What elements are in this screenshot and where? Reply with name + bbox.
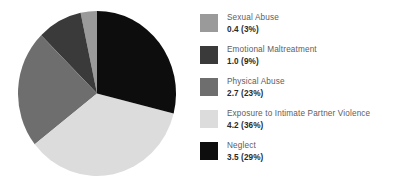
legend-color-swatch	[200, 110, 218, 128]
legend-text-group: Sexual Abuse0.4 (3%)	[227, 13, 279, 35]
legend-item-value: 0.4 (3%)	[227, 24, 279, 35]
legend-item-label: Emotional Maltreatment	[227, 45, 317, 56]
legend-item[interactable]: Sexual Abuse0.4 (3%)	[200, 13, 400, 45]
legend-item-label: Physical Abuse	[227, 77, 285, 88]
pie-chart-figure: Sexual Abuse0.4 (3%)Emotional Maltreatme…	[0, 0, 405, 187]
legend-item-value: 2.7 (23%)	[227, 88, 285, 99]
legend-item-label: Exposure to Intimate Partner Violence	[227, 109, 370, 120]
legend-item[interactable]: Physical Abuse2.7 (23%)	[200, 77, 400, 109]
legend-item[interactable]: Neglect3.5 (29%)	[200, 141, 400, 173]
legend-color-swatch	[200, 78, 218, 96]
pie-slice-group	[18, 11, 176, 176]
legend-text-group: Neglect3.5 (29%)	[227, 141, 263, 163]
legend-item[interactable]: Exposure to Intimate Partner Violence4.2…	[200, 109, 400, 141]
legend-item-value: 4.2 (36%)	[227, 120, 370, 131]
legend-text-group: Physical Abuse2.7 (23%)	[227, 77, 285, 99]
legend-item-value: 1.0 (9%)	[227, 56, 317, 67]
legend-color-swatch	[200, 14, 218, 32]
legend-item-value: 3.5 (29%)	[227, 152, 263, 163]
pie-svg	[18, 11, 176, 176]
legend-text-group: Exposure to Intimate Partner Violence4.2…	[227, 109, 370, 131]
pie-chart-graphic	[18, 11, 176, 176]
legend-item[interactable]: Emotional Maltreatment1.0 (9%)	[200, 45, 400, 77]
legend-item-label: Neglect	[227, 141, 263, 152]
legend-text-group: Emotional Maltreatment1.0 (9%)	[227, 45, 317, 67]
legend-color-swatch	[200, 142, 218, 160]
legend-color-swatch	[200, 46, 218, 64]
legend-item-label: Sexual Abuse	[227, 13, 279, 24]
chart-legend: Sexual Abuse0.4 (3%)Emotional Maltreatme…	[200, 13, 400, 173]
